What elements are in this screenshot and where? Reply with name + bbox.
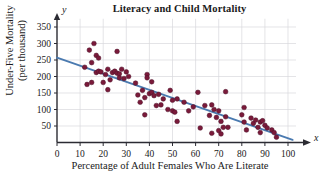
data-point: [274, 135, 279, 140]
data-point: [122, 76, 127, 81]
x-tick-label: 30: [122, 149, 132, 159]
data-point: [145, 75, 150, 80]
data-point: [260, 118, 265, 123]
tick-labels: 5010015020025030035001020304050607080901…: [37, 22, 296, 158]
x-axis-line: [57, 139, 311, 145]
data-point: [242, 120, 247, 125]
data-point: [223, 114, 228, 119]
scatter-plot-canvas: 5010015020025030035001020304050607080901…: [0, 0, 323, 183]
data-point: [207, 113, 212, 118]
y-tick-label: 100: [37, 105, 52, 115]
data-point: [138, 100, 143, 105]
data-point: [108, 77, 113, 82]
x-tick-label: 20: [98, 149, 108, 159]
data-point: [272, 130, 277, 135]
y-tick-label: 200: [37, 72, 52, 82]
data-point: [226, 125, 231, 130]
data-point: [126, 74, 131, 79]
data-point: [175, 119, 180, 124]
data-point: [105, 87, 110, 92]
data-point: [119, 67, 124, 72]
x-tick-label: 60: [191, 149, 201, 159]
data-point: [105, 67, 110, 72]
data-point: [214, 115, 219, 120]
y-axis-line: [54, 13, 60, 143]
x-tick-label: 50: [168, 149, 178, 159]
data-point: [103, 72, 108, 77]
data-point: [198, 126, 203, 131]
data-point: [152, 93, 157, 98]
data-point: [133, 81, 138, 86]
data-point: [101, 80, 106, 85]
x-tick-label: 10: [75, 149, 85, 159]
data-point: [265, 126, 270, 131]
data-point: [166, 107, 171, 112]
x-tick-label: 80: [237, 149, 247, 159]
data-point: [168, 88, 173, 93]
data-point: [136, 93, 141, 98]
data-point: [99, 70, 104, 75]
data-point: [209, 131, 214, 136]
data-point: [244, 128, 249, 133]
data-point: [156, 92, 161, 97]
data-point: [219, 132, 224, 137]
data-point: [124, 70, 129, 75]
data-point: [216, 108, 221, 113]
data-point: [202, 103, 207, 108]
data-point: [142, 112, 147, 117]
data-point: [142, 95, 147, 100]
y-axis-title-line2: (per thousand): [16, 0, 28, 111]
data-point: [154, 103, 159, 108]
data-point: [85, 82, 90, 87]
data-point: [175, 97, 180, 102]
data-point: [89, 80, 94, 85]
data-point: [87, 48, 92, 53]
x-tick-label: 90: [260, 149, 270, 159]
x-tick-label: 100: [281, 149, 296, 159]
data-point: [239, 112, 244, 117]
y-tick-label: 150: [37, 88, 52, 98]
data-point: [96, 56, 101, 61]
y-tick-label: 50: [42, 121, 52, 131]
data-point: [140, 88, 145, 93]
x-tick-label: 70: [214, 149, 224, 159]
y-axis-variable-label: y: [61, 4, 67, 15]
y-axis-title-line1: Under-Five Mortality: [4, 5, 15, 95]
data-point: [161, 97, 166, 102]
data-point: [117, 75, 122, 80]
data-point: [253, 118, 258, 123]
y-tick-label: 350: [37, 22, 52, 32]
data-point: [89, 60, 94, 65]
data-point: [172, 110, 177, 115]
y-axis-title: Under-Five Mortality (per thousand): [4, 0, 27, 111]
x-tick-label: 0: [55, 149, 60, 159]
data-point: [191, 105, 196, 110]
data-point: [186, 108, 191, 113]
data-point: [212, 107, 217, 112]
axis-ticks: [54, 27, 288, 146]
data-point: [149, 79, 154, 84]
data-point: [242, 105, 247, 110]
data-point: [115, 49, 120, 54]
data-point: [92, 41, 97, 46]
data-point: [219, 119, 224, 124]
data-point: [223, 89, 228, 94]
data-point: [82, 65, 87, 70]
x-axis-variable-label: x: [313, 132, 319, 143]
y-tick-label: 250: [37, 55, 52, 65]
chart-screenshot: Literacy and Child Mortality 50100150200…: [0, 0, 323, 183]
data-point: [221, 125, 226, 130]
data-point: [258, 130, 263, 135]
data-point: [196, 90, 201, 95]
y-tick-label: 300: [37, 39, 52, 49]
data-point: [170, 98, 175, 103]
x-axis-title: Percentage of Adult Females Who Are Lite…: [30, 160, 310, 171]
data-point: [249, 116, 254, 121]
data-point: [159, 103, 164, 108]
data-point: [209, 103, 214, 108]
data-point: [182, 100, 187, 105]
x-tick-label: 40: [145, 149, 155, 159]
data-point: [256, 125, 261, 130]
